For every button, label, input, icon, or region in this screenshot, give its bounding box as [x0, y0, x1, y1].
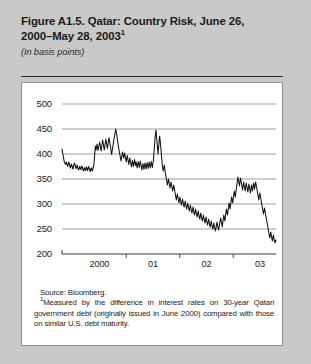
- series-line-qatar-risk: [62, 129, 276, 243]
- source-note: Source: Bloomberg.: [40, 288, 274, 298]
- figure-page: Figure A1.5. Qatar: Country Risk, June 2…: [0, 0, 311, 364]
- y-tick-label-400: 400: [26, 148, 52, 159]
- y-tick-label-500: 500: [26, 98, 52, 109]
- figure-notes: Source: Bloomberg. 1Measured by the diff…: [34, 288, 274, 330]
- figure-title-line2: 2000–May 28, 2003: [21, 30, 121, 42]
- figure-subtitle: (In basis points): [21, 47, 283, 57]
- x-tick-label-02: 02: [186, 259, 226, 269]
- x-tick-label-03: 03: [240, 259, 280, 269]
- line-chart-svg: [22, 83, 284, 268]
- title-divider: [21, 76, 283, 77]
- y-tick-label-200: 200: [26, 248, 52, 259]
- title-superscript: 1: [121, 28, 125, 37]
- y-tick-label-350: 350: [26, 173, 52, 184]
- footnote-text: Measured by the difference in interest r…: [34, 298, 274, 328]
- figure-title-line1: Figure A1.5. Qatar: Country Risk, June 2…: [21, 15, 244, 27]
- y-tick-label-450: 450: [26, 123, 52, 134]
- figure-container: Figure A1.5. Qatar: Country Risk, June 2…: [10, 0, 292, 364]
- x-tick-label-2000: 2000: [79, 259, 119, 269]
- y-tick-label-250: 250: [26, 223, 52, 234]
- page-title: Figure A1.5. Qatar: Country Risk, June 2…: [21, 14, 283, 43]
- y-tick-label-300: 300: [26, 198, 52, 209]
- chart-panel: 200250300350400450500 2000010203 Source:…: [21, 82, 283, 346]
- title-block: Figure A1.5. Qatar: Country Risk, June 2…: [21, 14, 283, 57]
- footnote-note: 1Measured by the difference in interest …: [34, 298, 274, 329]
- x-tick-label-01: 01: [133, 259, 173, 269]
